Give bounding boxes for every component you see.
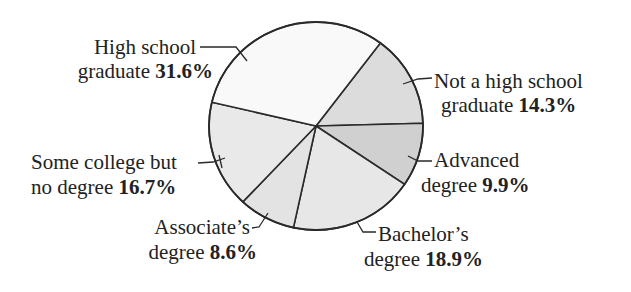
label-bachelors-value: degree 18.9% bbox=[364, 247, 483, 271]
label-some-college-value: no degree 16.7% bbox=[31, 175, 176, 199]
label-associates: Associate’s bbox=[154, 215, 250, 239]
pie-chart: High school graduate 31.6% Not a high sc… bbox=[0, 0, 631, 292]
label-some-college: Some college but bbox=[31, 150, 177, 174]
label-not-high-school: Not a high school bbox=[434, 69, 583, 93]
label-advanced: Advanced bbox=[434, 148, 520, 172]
label-advanced-value: degree 9.9% bbox=[421, 173, 529, 197]
label-not-high-school-value: graduate 14.3% bbox=[441, 93, 576, 117]
label-high-school-value: graduate 31.6% bbox=[78, 59, 213, 83]
label-associates-value: degree 8.6% bbox=[149, 240, 257, 264]
label-bachelors: Bachelor’s bbox=[378, 222, 469, 246]
leader-bachelors bbox=[357, 222, 376, 232]
label-high-school: High school bbox=[94, 35, 196, 59]
